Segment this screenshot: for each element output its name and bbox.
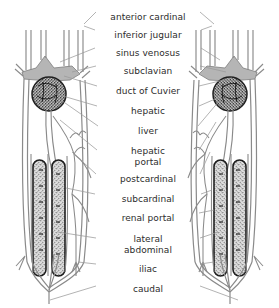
label-postcardinal: postcardinal: [120, 174, 176, 185]
diagram-canvas: anterior cardinalinferior jugularsinus v…: [0, 0, 279, 308]
label-iliac: iliac: [139, 264, 157, 275]
label-hepatic: hepatic: [131, 106, 165, 117]
label-inferior-jugular: inferior jugular: [114, 30, 181, 41]
left-figure: [15, 30, 91, 304]
label-duct-of-cuvier: duct of Cuvier: [116, 86, 180, 97]
label-anterior-cardinal: anterior cardinal: [110, 12, 185, 23]
label-sinus-venosus: sinus venosus: [116, 48, 180, 59]
right-figure: [188, 30, 264, 304]
label-liver: liver: [138, 126, 158, 137]
label-lateral-abdominal: lateralabdominal: [124, 234, 172, 255]
label-subclavian: subclavian: [124, 66, 173, 77]
label-caudal: caudal: [133, 284, 163, 295]
label-hepatic-portal: hepaticportal: [131, 146, 165, 167]
label-subcardinal: subcardinal: [122, 194, 175, 205]
label-renal-portal: renal portal: [122, 213, 175, 224]
